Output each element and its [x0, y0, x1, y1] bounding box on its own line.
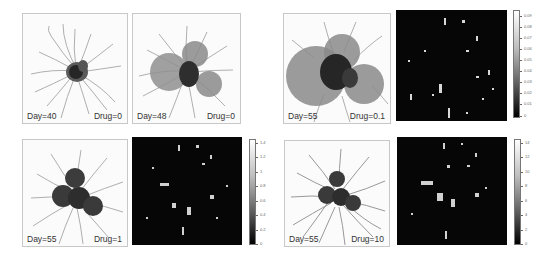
simulation-panel-day40-drug0: Day=40 Drug=0 [22, 13, 128, 124]
drug-concentration-map-drug1 [132, 137, 242, 245]
colorbar-tick: 12 [525, 155, 529, 159]
simulation-panel-day55-drug1: Day=55 Drug=1 [22, 139, 128, 247]
simulation-panel-day55-drug0.1: Day=55 Drug=0.1 [283, 13, 391, 124]
vessel-network-image [23, 140, 128, 247]
colorbar-tick: 0 [525, 242, 527, 246]
drug-label: Drug=10 [351, 234, 384, 244]
colorbar [514, 139, 521, 245]
colorbar-tick: 0.03 [524, 80, 532, 84]
day-label: Day=40 [27, 111, 57, 121]
colorbar-tick: 0 [524, 114, 526, 118]
colorbar [513, 10, 520, 118]
day-label: Day=48 [137, 111, 167, 121]
colorbar-tick: 0.8 [260, 184, 266, 188]
tumour-blob [66, 60, 88, 82]
tumour-blob [150, 41, 222, 97]
day-label: Day=55 [27, 234, 57, 244]
simulation-panel-day48-drug0: Day=48 Drug=0 [132, 13, 241, 124]
colorbar-tick: 0.02 [524, 91, 532, 95]
tumour-blob [318, 171, 361, 211]
day-label: Day=55 [288, 111, 318, 121]
colorbar-tick: 1.2 [260, 155, 266, 159]
colorbar-tick: 0.05 [524, 58, 532, 62]
colorbar-tick: 0.4 [260, 213, 266, 217]
colorbar-tick: 2 [525, 228, 527, 232]
colorbar-tick: 0.08 [524, 25, 532, 29]
colorbar-tick: 6 [525, 199, 527, 203]
drug-label: Drug=1 [94, 234, 122, 244]
colorbar-tick: 4 [525, 213, 527, 217]
day-label: Day=55 [289, 234, 319, 244]
vessel-network-image [284, 14, 391, 124]
colorbar-tick: 0.09 [524, 14, 532, 18]
drug-label: Drug=0 [207, 111, 235, 121]
colorbar-tick: 0.06 [524, 47, 532, 51]
colorbar-tick: 0.07 [524, 36, 532, 40]
colorbar-tick: 1.4 [260, 141, 266, 145]
concentration-specks [132, 137, 242, 245]
colorbar-tick: 0 [260, 242, 262, 246]
colorbar-tick: 0.01 [524, 102, 532, 106]
concentration-specks [397, 137, 507, 245]
drug-label: Drug=0.1 [350, 111, 385, 121]
colorbar-tick: 0.04 [524, 69, 532, 73]
colorbar-tick: 8 [525, 184, 527, 188]
drug-label: Drug=0 [94, 111, 122, 121]
colorbar-tick: 10 [525, 170, 529, 174]
colorbar-tick: 0.6 [260, 199, 266, 203]
colorbar [249, 139, 256, 245]
colorbar-tick: 1 [260, 170, 262, 174]
colorbar-tick: 14 [525, 141, 529, 145]
colorbar-tick: 0.2 [260, 228, 266, 232]
drug-concentration-map-drug0.1 [396, 10, 507, 121]
drug-concentration-map-drug10 [397, 137, 507, 245]
vessel-network-image [133, 14, 241, 124]
tumour-blob [286, 34, 384, 106]
simulation-panel-day55-drug10: Day=55 Drug=10 [284, 140, 390, 247]
vessel-network-image [23, 14, 128, 124]
vessel-network-image [285, 141, 390, 247]
concentration-specks [396, 10, 507, 121]
